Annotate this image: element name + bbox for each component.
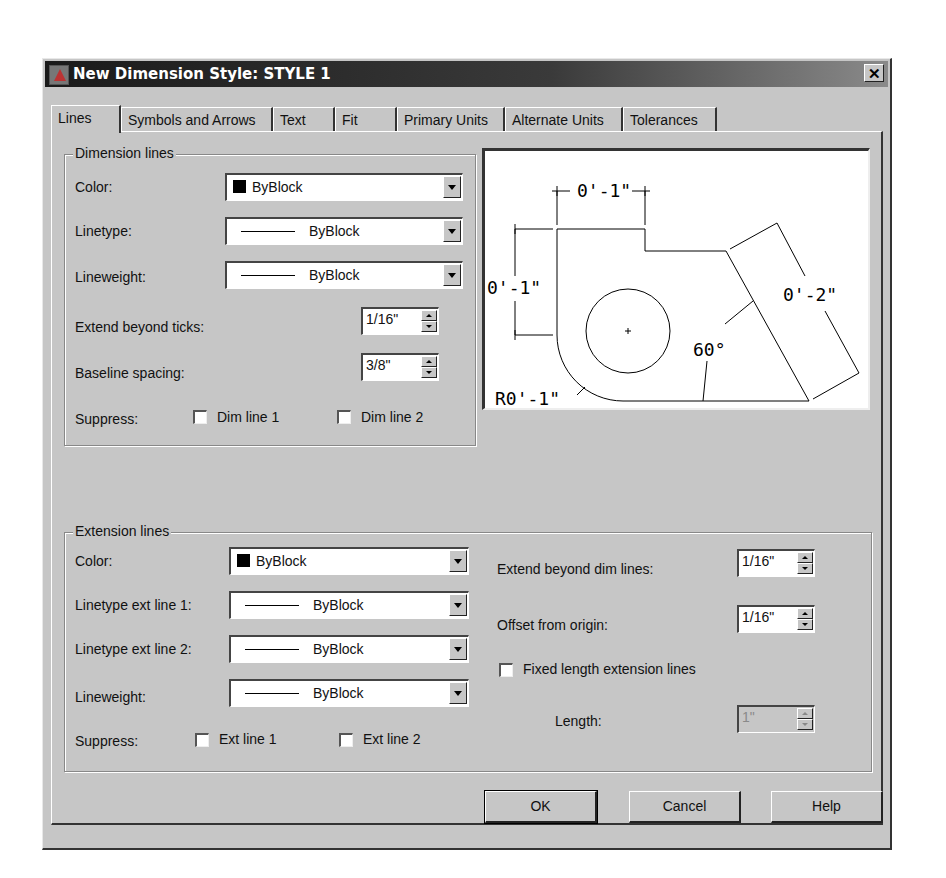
extend-beyond-ticks-spinner[interactable]: 1/16" (361, 307, 439, 335)
new-dimension-style-dialog: New Dimension Style: STYLE 1 ✕ Dimension… (42, 58, 892, 850)
tab-fit[interactable]: Fit (335, 107, 397, 131)
dim-line-2-label[interactable]: Dim line 2 (361, 409, 423, 425)
spin-down-icon (797, 719, 813, 730)
dimension-preview: 0'-1" 0'-1" 0'-2" 60° R0'-1" (482, 148, 870, 410)
tab-text[interactable]: Text (273, 107, 335, 131)
ext-line-2-checkbox[interactable] (339, 733, 353, 747)
extend-beyond-dim-lines-label: Extend beyond dim lines: (497, 561, 653, 577)
ext-linetype-1-select[interactable]: ByBlock (229, 591, 469, 619)
ext-linetype-1-value: ByBlock (313, 597, 364, 613)
length-value: 1" (742, 709, 755, 725)
baseline-spacing-spinner[interactable]: 3/8" (361, 353, 439, 381)
help-button[interactable]: Help (771, 791, 883, 823)
app-icon (49, 65, 69, 85)
dim-lineweight-label: Lineweight: (75, 269, 146, 285)
preview-angle-dim: 60° (693, 339, 726, 360)
chevron-down-icon[interactable] (449, 638, 467, 660)
close-button[interactable]: ✕ (864, 64, 884, 82)
spin-up-icon[interactable] (421, 310, 437, 321)
tab-alternate-units[interactable]: Alternate Units (505, 107, 623, 131)
spin-up-icon[interactable] (421, 356, 437, 367)
tab-tolerances[interactable]: Tolerances (623, 107, 717, 131)
chevron-down-icon[interactable] (443, 264, 461, 286)
line-sample-icon (245, 649, 299, 650)
chevron-down-icon[interactable] (443, 220, 461, 242)
offset-from-origin-value[interactable]: 1/16" (742, 609, 774, 625)
spin-up-icon[interactable] (797, 552, 813, 563)
spin-down-icon[interactable] (421, 321, 437, 332)
preview-top-dim: 0'-1" (577, 180, 631, 201)
fixed-length-label[interactable]: Fixed length extension lines (523, 661, 696, 677)
ext-linetype-2-value: ByBlock (313, 641, 364, 657)
dim-color-select[interactable]: ByBlock (225, 173, 463, 201)
tab-lines[interactable]: Lines (51, 105, 121, 133)
title-bar[interactable]: New Dimension Style: STYLE 1 ✕ (45, 61, 888, 87)
preview-radius-dim: R0'-1" (495, 388, 560, 408)
dim-suppress-label: Suppress: (75, 411, 138, 427)
dim-line-1-label[interactable]: Dim line 1 (217, 409, 279, 425)
line-sample-icon (245, 693, 299, 694)
ext-line-1-label[interactable]: Ext line 1 (219, 731, 277, 747)
chevron-down-icon[interactable] (443, 176, 461, 198)
ext-lineweight-select[interactable]: ByBlock (229, 679, 469, 707)
dim-lineweight-select[interactable]: ByBlock (225, 261, 463, 289)
ext-line-2-label[interactable]: Ext line 2 (363, 731, 421, 747)
ext-line-1-checkbox[interactable] (195, 733, 209, 747)
line-sample-icon (241, 275, 295, 276)
cancel-button[interactable]: Cancel (629, 791, 741, 823)
tab-panel-lines: Dimension lines Color: ByBlock Linetype:… (51, 131, 883, 825)
tab-symbols-and-arrows[interactable]: Symbols and Arrows (121, 107, 273, 131)
length-spinner: 1" (737, 705, 815, 733)
group-label: Extension lines (73, 523, 171, 539)
spin-down-icon[interactable] (797, 563, 813, 574)
ext-color-value: ByBlock (256, 553, 307, 569)
preview-right-dim: 0'-2" (783, 284, 837, 305)
extend-beyond-ticks-value[interactable]: 1/16" (366, 311, 398, 327)
offset-from-origin-spinner[interactable]: 1/16" (737, 605, 815, 633)
chevron-down-icon[interactable] (449, 682, 467, 704)
extend-beyond-dim-lines-value[interactable]: 1/16" (742, 553, 774, 569)
dimension-lines-group: Dimension lines Color: ByBlock Linetype:… (64, 154, 476, 446)
dim-line-2-checkbox[interactable] (337, 410, 351, 424)
ok-button[interactable]: OK (485, 791, 597, 823)
dim-linetype-value: ByBlock (309, 223, 360, 239)
spin-down-icon[interactable] (797, 619, 813, 630)
ext-linetype-2-select[interactable]: ByBlock (229, 635, 469, 663)
ext-color-label: Color: (75, 553, 112, 569)
color-swatch (237, 554, 250, 567)
ext-linetype-1-label: Linetype ext line 1: (75, 597, 192, 613)
extension-lines-group: Extension lines Color: ByBlock Linetype … (64, 532, 872, 772)
dim-color-value: ByBlock (252, 179, 303, 195)
line-sample-icon (245, 605, 299, 606)
extend-beyond-ticks-label: Extend beyond ticks: (75, 319, 204, 335)
dim-lineweight-value: ByBlock (309, 267, 360, 283)
spin-down-icon[interactable] (421, 367, 437, 378)
dim-linetype-label: Linetype: (75, 223, 132, 239)
fixed-length-checkbox[interactable] (499, 663, 513, 677)
group-label: Dimension lines (73, 145, 176, 161)
dim-line-1-checkbox[interactable] (193, 410, 207, 424)
chevron-down-icon[interactable] (449, 594, 467, 616)
dim-color-label: Color: (75, 179, 112, 195)
baseline-spacing-label: Baseline spacing: (75, 365, 185, 381)
preview-drawing: 0'-1" 0'-1" 0'-2" 60° R0'-1" (485, 151, 868, 408)
line-sample-icon (241, 231, 295, 232)
dim-linetype-select[interactable]: ByBlock (225, 217, 463, 245)
length-label: Length: (555, 713, 602, 729)
ext-suppress-label: Suppress: (75, 733, 138, 749)
ext-color-select[interactable]: ByBlock (229, 547, 469, 575)
spin-up-icon[interactable] (797, 608, 813, 619)
spin-up-icon (797, 708, 813, 719)
offset-from-origin-label: Offset from origin: (497, 617, 608, 633)
baseline-spacing-value[interactable]: 3/8" (366, 357, 390, 373)
tab-primary-units[interactable]: Primary Units (397, 107, 505, 131)
color-swatch (233, 180, 246, 193)
window-title: New Dimension Style: STYLE 1 (73, 65, 331, 83)
ext-linetype-2-label: Linetype ext line 2: (75, 641, 192, 657)
chevron-down-icon[interactable] (449, 550, 467, 572)
ext-lineweight-value: ByBlock (313, 685, 364, 701)
extend-beyond-dim-lines-spinner[interactable]: 1/16" (737, 549, 815, 577)
preview-left-dim: 0'-1" (487, 277, 541, 298)
ext-lineweight-label: Lineweight: (75, 689, 146, 705)
